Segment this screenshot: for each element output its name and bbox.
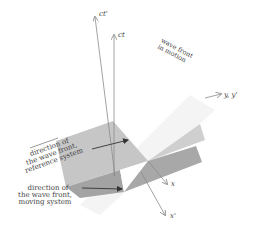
moving-label-line3: moving system [19, 198, 72, 206]
ct-prime-label: ct' [99, 10, 108, 18]
x-prime-label: x' [170, 212, 176, 220]
x-label: x [171, 180, 175, 188]
y-axis [205, 94, 221, 98]
ct-label: ct [118, 31, 125, 39]
wave-front-motion-label: wave front in motion [156, 36, 195, 66]
moving-label: direction of the wave front, moving syst… [18, 184, 72, 206]
wave-front-diagram: ct' ct y, y' x x' wave front in motion d… [0, 0, 256, 229]
y-label: y, y' [223, 91, 237, 99]
